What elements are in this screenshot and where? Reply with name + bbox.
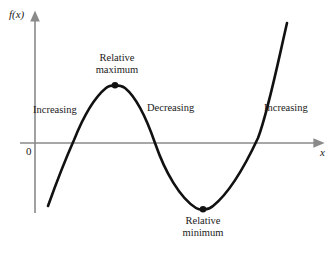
graph-canvas xyxy=(0,0,336,253)
relative-minimum-point xyxy=(200,206,207,213)
relative-maximum-point xyxy=(112,82,119,89)
decreasing-label: Decreasing xyxy=(147,102,194,114)
y-axis-label: f(x) xyxy=(9,8,24,20)
origin-label: 0 xyxy=(26,145,32,157)
function-curve xyxy=(48,23,287,210)
x-axis-label: x xyxy=(320,146,325,158)
increasing-left-label: Increasing xyxy=(33,104,77,116)
relative-maximum-label-line1: Relative xyxy=(86,52,148,64)
relative-minimum-label: Relative minimum xyxy=(172,215,234,239)
relative-minimum-label-line1: Relative xyxy=(172,215,234,227)
increasing-right-label: Increasing xyxy=(264,102,308,114)
figure-container: f(x) x 0 Increasing Decreasing Increasin… xyxy=(0,0,336,253)
relative-minimum-label-line2: minimum xyxy=(172,227,234,239)
relative-maximum-label: Relative maximum xyxy=(86,52,148,76)
relative-maximum-label-line2: maximum xyxy=(86,64,148,76)
